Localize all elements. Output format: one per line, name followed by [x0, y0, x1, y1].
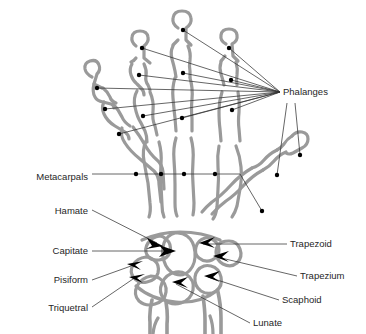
thumb-metacarpal-b [202, 168, 252, 212]
label-hamate: Hamate [55, 205, 88, 216]
thumb-proximal-phalanx-b [252, 150, 277, 168]
hand-skeleton-diagram: Phalanges Metacarpals Hamate Capitate Pi… [0, 0, 366, 334]
dot-metacarpal-1 [134, 172, 138, 176]
middle-proximal-phalanx [173, 78, 176, 131]
dot-ring-distal [140, 46, 144, 50]
dot-metacarpal-4 [213, 172, 217, 176]
dot-index-middle [229, 78, 233, 82]
radius-bone [203, 296, 205, 334]
dot-metacarpal-thumb [260, 209, 264, 213]
middle-distal-phalanx [173, 11, 191, 45]
index-proximal-phalanx [219, 92, 222, 141]
leader-phalanges-7 [142, 48, 280, 92]
label-metacarpals: Metacarpals [36, 171, 88, 182]
label-trapezium: Trapezium [300, 270, 345, 281]
dot-pinky-middle [103, 107, 107, 111]
middle-middle-phalanx-b [188, 46, 190, 77]
dot-ring-proximal [141, 114, 145, 118]
middle-distal-phalanx-b [173, 40, 178, 45]
leader-phalanges-thumb-1 [277, 103, 287, 175]
leader-phalanges-9 [143, 92, 280, 116]
dot-pinky-distal [95, 86, 99, 90]
dot-index-proximal [230, 108, 234, 112]
dot-middle-distal [181, 28, 185, 32]
arrowhead-scaphoid [204, 271, 220, 282]
dot-metacarpal-3 [182, 172, 186, 176]
label-phalanges: Phalanges [283, 86, 328, 97]
leader-triquetral [92, 279, 133, 307]
label-lunate: Lunate [253, 317, 282, 328]
ulna-styloid [153, 318, 158, 334]
ring-middle-phalanx-b [144, 64, 150, 90]
thumb-distal-phalanx [286, 132, 308, 154]
leader-phalanges-thumb-2 [295, 103, 300, 155]
ulna-bone-b [166, 302, 167, 334]
label-scaphoid: Scaphoid [282, 294, 322, 305]
radius-styloid [210, 316, 213, 334]
ulna-bone [150, 300, 152, 334]
middle-proximal-phalanx-b [190, 78, 192, 131]
middle-metacarpal-b [191, 138, 194, 215]
dot-metacarpal-2 [159, 172, 163, 176]
dot-index-distal [227, 46, 231, 50]
middle-middle-phalanx [171, 46, 176, 77]
dot-pinky-proximal [117, 132, 121, 136]
label-trapezoid: Trapezoid [290, 238, 332, 249]
ring-distal-phalanx-b [131, 58, 136, 62]
dot-middle-middle [181, 71, 185, 75]
thumb-proximal-phalanx [263, 152, 286, 170]
label-triquetral: Triquetral [48, 302, 88, 313]
label-pisiform: Pisiform [54, 274, 88, 285]
leader-pisiform [92, 266, 131, 280]
label-capitate: Capitate [53, 245, 88, 256]
middle-metacarpal [174, 138, 177, 216]
dot-thumb-distal [298, 153, 302, 157]
thumb-distal-phalanx-b [277, 136, 292, 150]
leader-hamate [92, 210, 157, 243]
dot-thumb-proximal [275, 173, 279, 177]
dot-middle-proximal [180, 116, 184, 120]
bone-outlines [85, 11, 308, 334]
leader-phalanges-12 [119, 92, 280, 134]
dot-ring-middle [137, 73, 141, 77]
radius-bone-b [218, 292, 221, 334]
